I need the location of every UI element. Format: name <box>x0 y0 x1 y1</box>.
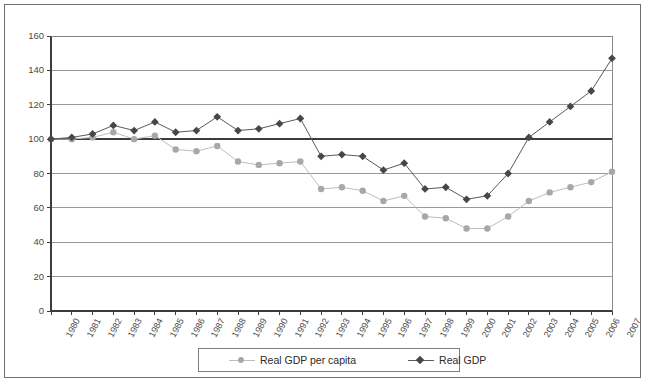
legend-label-real-gdp: Real GDP <box>439 354 486 366</box>
legend-marker-diamond-icon <box>408 355 434 365</box>
y-tick-label: 120 <box>18 100 44 110</box>
legend-label-real-gdp-per-capita: Real GDP per capita <box>260 354 356 366</box>
y-tick-label: 40 <box>18 237 44 247</box>
chart-legend: Real GDP per capita Real GDP <box>198 348 460 372</box>
y-tick-label: 80 <box>18 169 44 179</box>
legend-item-real-gdp-per-capita: Real GDP per capita <box>229 354 356 366</box>
legend-item-real-gdp: Real GDP <box>408 354 486 366</box>
y-tick-label: 0 <box>18 306 44 316</box>
y-tick-label: 160 <box>18 31 44 41</box>
y-tick-label: 140 <box>18 65 44 75</box>
legend-marker-circle-icon <box>229 355 255 365</box>
chart-figure: 020406080100120140160 198019811982198319… <box>0 0 645 388</box>
y-tick-label: 60 <box>18 203 44 213</box>
y-tick-label: 20 <box>18 272 44 282</box>
y-tick-label: 100 <box>18 134 44 144</box>
